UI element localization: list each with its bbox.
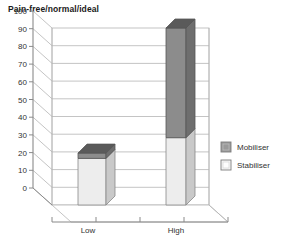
y-axis-ticks	[29, 11, 33, 188]
chart-svg: 100 90 80 70 60 50 40 30 20 10 0 Low loa	[0, 0, 292, 237]
y-tick-label: 60	[18, 78, 27, 87]
y-tick-label: 70	[18, 60, 27, 69]
legend-swatch-inner-stabiliser	[223, 162, 229, 168]
y-tick-label: 80	[18, 42, 27, 51]
x-tick-label-high-line1: High	[168, 226, 184, 235]
bar-high-load[interactable]	[166, 19, 195, 205]
bar-low-load[interactable]	[78, 144, 115, 205]
y-tick-label: 100	[14, 7, 28, 16]
y-tick-label: 20	[18, 149, 27, 158]
y-axis-labels: 100 90 80 70 60 50 40 30 20 10 0	[14, 7, 28, 193]
y-tick-label: 0	[23, 184, 28, 193]
legend: Mobiliser Stabiliser	[221, 142, 270, 170]
legend-swatch-inner-mobiliser	[223, 144, 229, 150]
y-tick-label: 90	[18, 25, 27, 34]
chart-container: Pain-free/normal/ideal	[0, 0, 292, 237]
legend-label-mobiliser: Mobiliser	[237, 143, 269, 152]
y-tick-label: 10	[18, 166, 27, 175]
x-tick-label-low-line1: Low	[81, 226, 96, 235]
x-axis-labels: Low load High load	[80, 226, 184, 237]
legend-label-stabiliser: Stabiliser	[237, 161, 270, 170]
y-tick-label: 30	[18, 131, 27, 140]
y-tick-label: 50	[18, 96, 27, 105]
y-tick-label: 40	[18, 113, 27, 122]
